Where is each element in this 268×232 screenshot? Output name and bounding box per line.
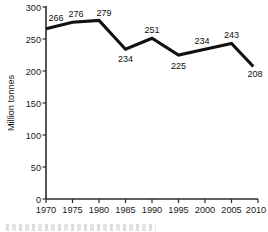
value-label-1970: 266 — [48, 13, 63, 23]
x-tick-label-1975: 1975 — [62, 205, 82, 215]
y-tick-label-0: 0 — [36, 195, 41, 205]
x-tick-label-1970: 1970 — [36, 205, 56, 215]
x-tick-label-1995: 1995 — [168, 205, 188, 215]
y-tick-label-250: 250 — [26, 35, 41, 45]
value-label-1975: 276 — [68, 9, 83, 19]
value-label-1980: 279 — [96, 8, 111, 18]
x-tick-label-1980: 1980 — [89, 205, 109, 215]
y-tick-label-200: 200 — [26, 67, 41, 77]
y-axis-title: Million tonnes — [6, 75, 16, 132]
chart-canvas: Million tonnes 300 250 200 150 100 50 0 … — [0, 0, 268, 232]
value-label-1995: 225 — [171, 61, 186, 71]
value-label-2009: 208 — [247, 69, 262, 79]
value-label-2005: 243 — [224, 30, 239, 40]
x-tick-label-2000: 2000 — [195, 205, 215, 215]
y-tick-label-100: 100 — [26, 131, 41, 141]
value-label-1985: 234 — [118, 54, 133, 64]
x-tick-label-2010: 2010 — [246, 205, 266, 215]
value-label-2000: 234 — [194, 36, 209, 46]
x-tick-label-1990: 1990 — [142, 205, 162, 215]
y-tick-label-50: 50 — [31, 163, 41, 173]
y-tick-label-300: 300 — [26, 3, 41, 13]
line-chart: Million tonnes 300 250 200 150 100 50 0 … — [0, 0, 268, 232]
value-label-1990: 251 — [144, 25, 159, 35]
source-caption — [6, 224, 156, 231]
x-tick-label-2005: 2005 — [221, 205, 241, 215]
y-tick-label-150: 150 — [26, 99, 41, 109]
x-tick-label-1985: 1985 — [115, 205, 135, 215]
